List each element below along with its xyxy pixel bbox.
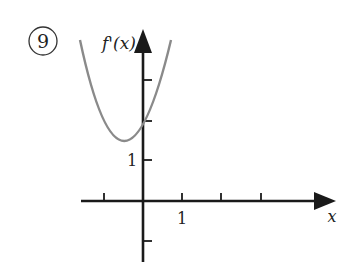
y-axis-arrow-icon: [134, 29, 152, 53]
y-axis-label: f'(x): [100, 33, 136, 53]
derivative-curve: [80, 40, 171, 141]
problem-number: 9: [37, 30, 49, 52]
x-axis-label: x: [327, 207, 336, 226]
y-ticks: [143, 80, 152, 241]
y-tick-label-1: 1: [127, 151, 137, 170]
problem-number-badge: 9: [29, 27, 57, 55]
derivative-graph: 9 f'(x) x 1 1: [0, 0, 354, 277]
x-tick-label-1: 1: [177, 209, 187, 228]
